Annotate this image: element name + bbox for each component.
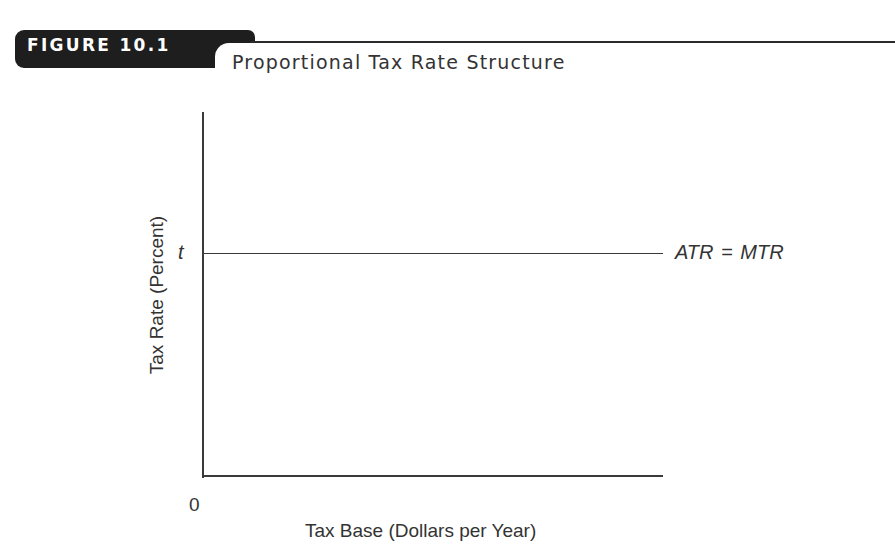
- x-axis-label: Tax Base (Dollars per Year): [305, 520, 536, 542]
- series-label: ATR = MTR: [675, 241, 784, 264]
- header-rule: [250, 41, 895, 43]
- figure-number: FIGURE 10.1: [27, 35, 171, 55]
- origin-label: 0: [189, 494, 200, 516]
- atr-mtr-line: [202, 253, 663, 254]
- figure-title: Proportional Tax Rate Structure: [232, 51, 566, 73]
- y-tick-t: t: [178, 241, 184, 264]
- y-axis: [202, 112, 204, 478]
- y-axis-label: Tax Rate (Percent): [146, 216, 168, 374]
- x-axis: [202, 475, 663, 477]
